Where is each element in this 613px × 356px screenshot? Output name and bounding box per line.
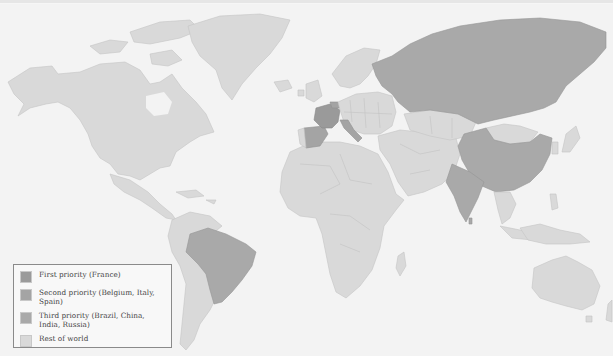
region-sri-lanka (469, 218, 472, 224)
region-iceland (274, 80, 292, 92)
legend-label: Second priority (Belgium, Italy, Spain) (39, 288, 165, 306)
region-uk (298, 80, 322, 102)
region-philippines (550, 194, 558, 210)
region-greenland (188, 14, 290, 100)
legend-label: First priority (France) (39, 270, 121, 279)
region-australia (532, 256, 600, 310)
map-legend: First priority (France) Second priority … (13, 264, 172, 348)
region-japan (562, 126, 580, 152)
region-caribbean (176, 190, 216, 204)
region-indonesia (520, 224, 590, 244)
legend-label: Third priority (Brazil, China, India, Ru… (39, 311, 159, 329)
legend-item-rest-of-world: Rest of world (20, 334, 165, 347)
legend-swatch-rest (20, 335, 32, 347)
legend-label: Rest of world (39, 334, 88, 343)
region-new-zealand (606, 300, 612, 322)
region-central-america (110, 174, 176, 220)
region-madagascar (396, 252, 406, 276)
region-africa (280, 142, 404, 298)
region-korea (552, 142, 558, 154)
legend-swatch-first (20, 271, 32, 283)
legend-item-second-priority: Second priority (Belgium, Italy, Spain) (20, 288, 165, 306)
region-russia (372, 18, 606, 124)
top-rule (0, 0, 613, 3)
region-canadian-archipelago (90, 20, 200, 66)
legend-swatch-second (20, 289, 32, 301)
legend-swatch-third (20, 312, 32, 324)
region-north-america (8, 62, 214, 180)
legend-item-first-priority: First priority (France) (20, 270, 165, 283)
region-scandinavia (332, 48, 380, 88)
region-tasmania (586, 316, 592, 322)
legend-item-third-priority: Third priority (Brazil, China, India, Ru… (20, 311, 165, 329)
